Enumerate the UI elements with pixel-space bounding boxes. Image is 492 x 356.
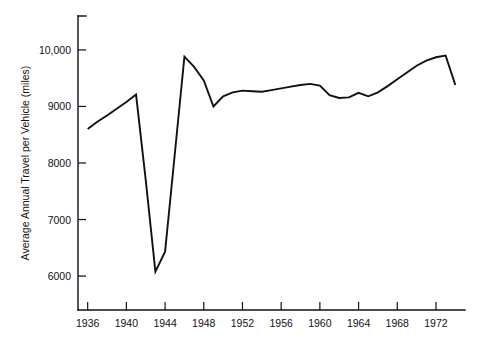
x-tick-label: 1936 [76, 317, 100, 329]
x-tick-label: 1964 [347, 317, 371, 329]
y-tick-label: 6000 [48, 270, 72, 282]
x-tick-label: 1944 [153, 317, 177, 329]
y-tick-label: 8000 [48, 157, 72, 169]
x-tick-label: 1972 [424, 317, 448, 329]
x-tick-label: 1968 [386, 317, 410, 329]
y-tick-label: 7000 [48, 214, 72, 226]
line-chart: 600070008000900010,000 19361940194419481… [0, 0, 492, 356]
x-tick-label: 1960 [308, 317, 332, 329]
x-tick-label: 1952 [231, 317, 255, 329]
y-axis-title: Average Annual Travel per Vehicle (miles… [19, 66, 31, 261]
chart-figure: 600070008000900010,000 19361940194419481… [0, 0, 492, 356]
x-axis-tick-labels: 1936194019441948195219561960196419681972 [76, 317, 448, 329]
y-axis-tick-labels: 600070008000900010,000 [39, 44, 71, 282]
x-tick-label: 1948 [192, 317, 216, 329]
axes [78, 16, 465, 310]
data-series-line [88, 56, 456, 272]
x-tick-label: 1940 [115, 317, 139, 329]
y-tick-label: 10,000 [39, 44, 71, 56]
x-axis-ticks [88, 302, 436, 310]
y-tick-label: 9000 [48, 100, 72, 112]
y-axis-ticks [78, 50, 86, 276]
x-tick-label: 1956 [269, 317, 293, 329]
